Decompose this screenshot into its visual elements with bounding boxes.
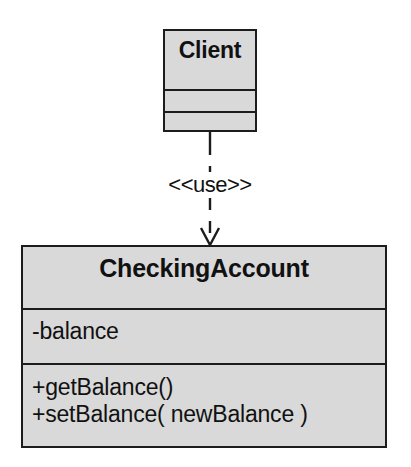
class-name-client: Client	[179, 37, 242, 63]
class-operations-compartment-client	[165, 111, 255, 130]
dependency-arrowhead-open	[201, 228, 219, 245]
class-attribute-balance: -balance	[32, 318, 385, 345]
class-operation-getbalance: +getBalance()	[32, 374, 385, 401]
class-name-compartment-checkingaccount: CheckingAccount	[23, 247, 385, 308]
uml-class-client[interactable]: Client	[163, 29, 257, 132]
class-name-compartment-client: Client	[165, 31, 255, 89]
class-operations-compartment-checkingaccount: +getBalance() +setBalance( newBalance )	[23, 363, 385, 446]
class-attributes-compartment-client	[165, 89, 255, 111]
class-name-checkingaccount: CheckingAccount	[99, 254, 309, 283]
dependency-stereotype-label: <<use>>	[130, 172, 290, 198]
uml-class-checkingaccount[interactable]: CheckingAccount -balance +getBalance() +…	[21, 245, 387, 448]
class-operation-setbalance: +setBalance( newBalance )	[32, 401, 385, 428]
class-attributes-compartment-checkingaccount: -balance	[23, 308, 385, 363]
uml-class-diagram: Client <<use>> CheckingAccount -balance …	[0, 0, 411, 467]
